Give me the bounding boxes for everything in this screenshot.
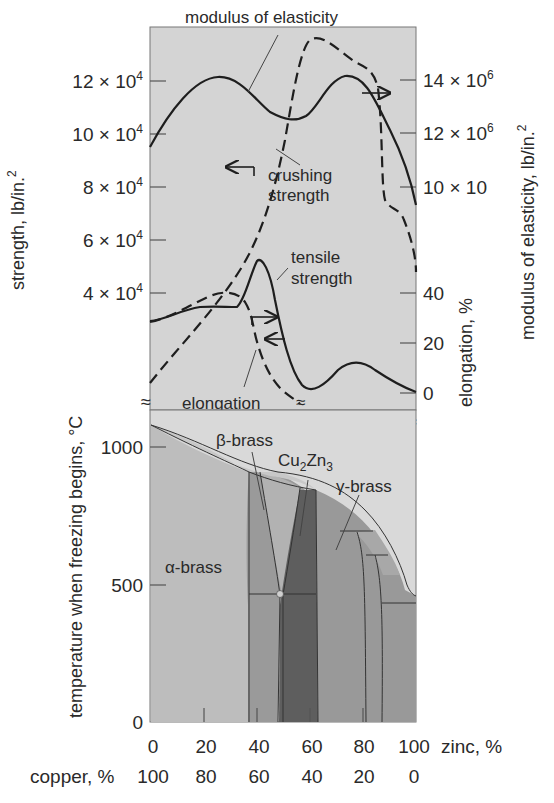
crushing-label-1: crushing xyxy=(268,166,332,185)
eutectoid-point xyxy=(277,591,284,598)
upper-plot-background xyxy=(150,27,416,410)
alpha-brass-label: α-brass xyxy=(165,558,222,577)
crushing-label-2: strength xyxy=(268,186,329,205)
svg-text:4 × 104: 4 × 104 xyxy=(83,281,143,304)
svg-text:20: 20 xyxy=(423,333,444,354)
phase-diagram-panel: α-brass β-brass Cu2Zn3 γ-brass xyxy=(150,410,416,722)
svg-text:0: 0 xyxy=(148,736,159,757)
svg-text:8 × 104: 8 × 104 xyxy=(83,175,143,198)
copper-axis-labels: copper, % 100 80 60 40 20 0 xyxy=(30,766,419,787)
svg-text:0: 0 xyxy=(423,383,434,404)
svg-text:10 × 10: 10 × 10 xyxy=(423,177,487,198)
strength-axis-title: strength, lb/in.2 xyxy=(5,170,28,290)
svg-text:60: 60 xyxy=(248,766,269,787)
svg-text:20: 20 xyxy=(195,736,216,757)
left-break-symbol: ≈ xyxy=(141,392,151,412)
svg-text:6 × 104: 6 × 104 xyxy=(83,228,143,251)
elongation-break-symbol: ≈ xyxy=(296,393,305,412)
zinc-axis-labels: 0 20 40 60 80 100 zinc, % xyxy=(148,736,503,757)
svg-text:40: 40 xyxy=(301,766,322,787)
svg-text:100: 100 xyxy=(137,766,169,787)
beta-brass-label: β-brass xyxy=(216,431,273,450)
svg-text:10 × 104: 10 × 104 xyxy=(72,122,143,145)
svg-text:0: 0 xyxy=(409,766,420,787)
svg-text:12 × 106: 12 × 106 xyxy=(423,121,494,144)
svg-text:60: 60 xyxy=(301,736,322,757)
modulus-label: modulus of elasticity xyxy=(185,8,339,27)
svg-text:40: 40 xyxy=(248,736,269,757)
svg-text:20: 20 xyxy=(353,766,374,787)
temperature-axis-labels: 1000 500 0 xyxy=(101,437,143,733)
svg-text:500: 500 xyxy=(111,575,143,596)
zinc-axis-title: zinc, % xyxy=(441,736,502,757)
gamma-brass-label: γ-brass xyxy=(336,477,392,496)
svg-text:40: 40 xyxy=(423,283,444,304)
temperature-axis-title: temperature when freezing begins, °C xyxy=(66,416,86,718)
elongation-axis-title: elongation, % xyxy=(456,298,476,407)
right-axis-elongation-labels: 40 20 0 xyxy=(423,283,444,404)
copper-axis-title: copper, % xyxy=(30,766,115,787)
svg-text:100: 100 xyxy=(398,736,430,757)
brass-properties-chart: modulus of elasticity crushing strength … xyxy=(0,0,554,803)
upper-plot-panel: modulus of elasticity crushing strength … xyxy=(150,8,416,413)
svg-text:80: 80 xyxy=(353,736,374,757)
svg-text:1000: 1000 xyxy=(101,437,143,458)
svg-text:80: 80 xyxy=(195,766,216,787)
left-axis-labels: 12 × 104 10 × 104 8 × 104 6 × 104 4 × 10… xyxy=(72,69,143,304)
svg-text:0: 0 xyxy=(132,712,143,733)
modulus-axis-title: modulus of elasticity, lb/in.2 xyxy=(515,124,538,340)
tensile-label-2: strength xyxy=(291,269,352,288)
svg-text:12 × 104: 12 × 104 xyxy=(72,69,143,92)
svg-text:14 × 106: 14 × 106 xyxy=(423,68,494,91)
right-axis-modulus-labels: 14 × 106 12 × 106 10 × 10 xyxy=(423,68,494,198)
tensile-label-1: tensile xyxy=(291,248,340,267)
